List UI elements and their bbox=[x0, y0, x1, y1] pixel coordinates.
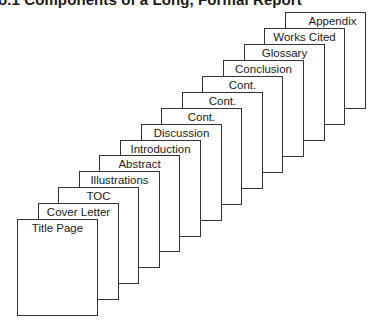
report-components-diagram: Appendix Works Cited Glossary Conclusion… bbox=[0, 0, 372, 329]
page-label: Appendix bbox=[300, 15, 365, 28]
page-label: Title Page bbox=[18, 222, 97, 235]
page-label: Illustrations bbox=[80, 174, 159, 187]
page-label: Cover Letter bbox=[39, 206, 118, 219]
page-label: Works Cited bbox=[265, 31, 344, 44]
page-label: Cont. bbox=[183, 95, 262, 108]
page-label: Conclusion bbox=[224, 63, 303, 76]
page-label: Cont. bbox=[162, 111, 241, 124]
page-label: Glossary bbox=[245, 47, 324, 60]
page-label: Discussion bbox=[142, 127, 221, 140]
page-label: TOC bbox=[59, 190, 138, 203]
page-label: Cont. bbox=[203, 79, 282, 92]
page-title-page: Title Page bbox=[17, 219, 98, 316]
page-label: Abstract bbox=[100, 158, 179, 171]
